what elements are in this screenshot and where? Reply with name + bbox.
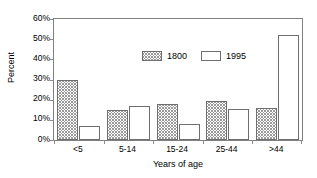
bar-group bbox=[157, 19, 200, 140]
x-tick-label: 25-44 bbox=[202, 145, 252, 154]
bar-1800-15-24 bbox=[157, 104, 178, 140]
y-axis-tick-labels: 0%10%20%30%40%50%60% bbox=[20, 0, 50, 178]
legend-item-1800: 1800 bbox=[142, 51, 201, 61]
y-tick-label: 50% bbox=[22, 34, 50, 43]
bar-1800-25-44 bbox=[206, 101, 227, 140]
y-axis-label: Percent bbox=[7, 38, 16, 98]
bar-1995-25-44 bbox=[228, 109, 249, 140]
legend-item-1995: 1995 bbox=[201, 51, 246, 61]
bar-group bbox=[107, 19, 150, 140]
x-tick-mark bbox=[54, 140, 55, 144]
bar-1995-5-14 bbox=[129, 106, 150, 140]
legend-swatch-1995 bbox=[201, 51, 221, 61]
bar-1995->44 bbox=[278, 35, 299, 140]
x-tick-mark bbox=[203, 140, 204, 144]
y-tick-mark bbox=[50, 39, 54, 40]
y-tick-label: 40% bbox=[22, 54, 50, 63]
x-axis-label: Years of age bbox=[53, 160, 303, 169]
bar-1995-<5 bbox=[79, 126, 100, 140]
x-tick-mark bbox=[252, 140, 253, 144]
y-tick-label: 10% bbox=[22, 114, 50, 123]
x-tick-label: 5-14 bbox=[102, 145, 152, 154]
legend-label-1995: 1995 bbox=[226, 52, 246, 61]
legend: 1800 1995 bbox=[142, 51, 246, 61]
plot-area bbox=[53, 18, 303, 141]
y-tick-label: 30% bbox=[22, 74, 50, 83]
legend-label-1800: 1800 bbox=[167, 52, 187, 61]
bar-chart: Percent 0%10%20%30%40%50%60% Years of ag… bbox=[0, 0, 317, 178]
x-tick-label: <5 bbox=[53, 145, 103, 154]
bar-group bbox=[256, 19, 299, 140]
y-tick-label: 20% bbox=[22, 94, 50, 103]
bar-1800-5-14 bbox=[107, 110, 128, 140]
x-tick-mark bbox=[153, 140, 154, 144]
y-tick-mark bbox=[50, 59, 54, 60]
bar-1995-15-24 bbox=[179, 124, 200, 140]
y-tick-label: 0% bbox=[22, 135, 50, 144]
bar-1800-<5 bbox=[57, 80, 78, 141]
x-tick-mark bbox=[301, 140, 302, 144]
y-tick-mark bbox=[50, 120, 54, 121]
y-tick-mark bbox=[50, 80, 54, 81]
bar-1800->44 bbox=[256, 108, 277, 140]
x-tick-mark bbox=[104, 140, 105, 144]
legend-swatch-1800 bbox=[142, 51, 162, 61]
y-tick-mark bbox=[50, 19, 54, 20]
x-tick-label: >44 bbox=[251, 145, 301, 154]
bar-group bbox=[57, 19, 100, 140]
x-tick-label: 15-24 bbox=[152, 145, 202, 154]
y-tick-mark bbox=[50, 100, 54, 101]
y-tick-label: 60% bbox=[22, 14, 50, 23]
bar-group bbox=[206, 19, 249, 140]
